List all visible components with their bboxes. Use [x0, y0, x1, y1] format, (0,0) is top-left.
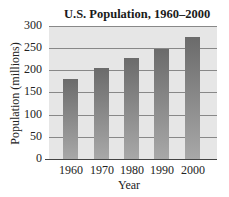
x-tick: 1990 — [147, 163, 177, 178]
x-tick: 1970 — [87, 163, 117, 178]
x-tick: 1960 — [56, 163, 86, 178]
y-tick: 300 — [12, 18, 42, 33]
bar-1970 — [94, 68, 109, 159]
bar-2000 — [185, 37, 200, 159]
x-axis-line — [45, 159, 217, 160]
chart: U.S. Population, 1960–2000 Population (m… — [0, 0, 229, 197]
y-tick: 100 — [12, 107, 42, 122]
y-tick: 250 — [12, 40, 42, 55]
chart-title: U.S. Population, 1960–2000 — [64, 7, 210, 22]
y-tick: 200 — [12, 62, 42, 77]
x-tick: 2000 — [178, 163, 208, 178]
plot-area — [49, 26, 217, 159]
bar-1980 — [124, 58, 139, 159]
y-tick: 150 — [12, 84, 42, 99]
y-tick: 0 — [12, 151, 42, 166]
bar-1960 — [63, 79, 78, 159]
gridline — [49, 26, 217, 27]
bar-1990 — [154, 49, 169, 159]
y-tick: 50 — [12, 129, 42, 144]
x-axis-title: Year — [118, 178, 140, 193]
x-tick: 1980 — [117, 163, 147, 178]
